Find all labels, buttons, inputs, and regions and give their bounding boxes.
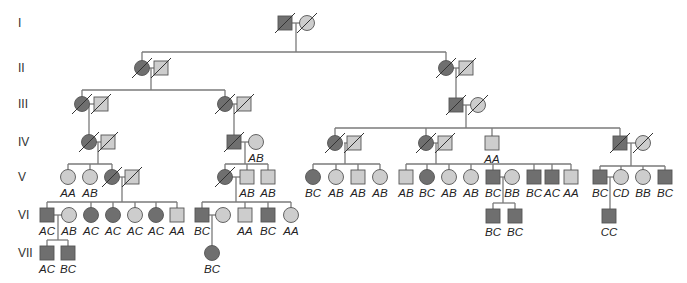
genotype-label: AA [282,225,299,237]
affected-male-square-icon [527,170,541,184]
individual-VI6: AC [147,208,165,238]
individual-III6 [468,95,488,115]
individual-VI5: AC [126,208,144,238]
individual-II2 [151,58,171,78]
genotype-label: BC [507,226,524,238]
unaffected-female-circle-icon [442,170,457,185]
individual-V6: AB [238,170,255,199]
unaffected-male-square-icon [399,170,413,184]
unaffected-female-circle-icon [329,170,344,185]
affected-female-circle-icon [205,246,220,261]
unaffected-male-square-icon [240,170,254,184]
unaffected-male-square-icon [351,170,365,184]
generation-label: V [18,170,26,184]
individual-V10: AB [349,170,366,199]
unaffected-female-circle-icon [249,135,264,150]
genotype-label: AB [247,152,264,164]
genotype-label: BC [204,263,221,275]
genotype-label: AA [59,187,76,199]
unaffected-female-circle-icon [464,170,479,185]
unaffected-female-circle-icon [216,208,231,223]
individual-IV11 [633,133,653,153]
genotype-label: AC [543,187,561,199]
genotype-label: BC [194,225,211,237]
genotype-label: AC [126,225,144,237]
individual-IV4: AB [247,135,264,165]
genotype-label: BC [485,187,502,199]
genotype-label: AB [397,187,414,199]
unaffected-female-circle-icon [83,170,98,185]
individual-V5 [215,167,235,187]
generation-label: VI [18,208,29,222]
unaffected-female-circle-icon [505,170,520,185]
individual-IV7 [416,133,436,153]
unaffected-female-circle-icon [284,208,299,223]
individual-VI10: AA [236,208,253,237]
individual-VI15: CC [601,209,618,238]
genotype-label: AB [327,187,344,199]
genotype-label: BC [592,187,609,199]
affected-male-square-icon [545,170,559,184]
individual-V24: BC [657,170,674,199]
individual-VII1: AC [38,246,56,275]
individual-V21: BC [592,170,609,199]
unaffected-female-circle-icon [373,170,388,185]
genotype-label: BC [260,225,277,237]
genotype-label: AB [60,225,77,237]
individual-IV1 [79,132,99,152]
genotype-label: BB [504,187,520,199]
individual-VII3: BC [204,246,221,276]
genotype-label: AC [38,225,56,237]
affected-female-circle-icon [149,208,164,223]
unaffected-female-circle-icon [614,170,629,185]
individual-VI9 [216,208,231,223]
generation-label: IV [18,135,29,149]
individual-III2 [91,94,111,114]
individual-VI8: BC [194,208,211,237]
individual-V17: BB [504,170,520,200]
individual-V3 [102,167,122,187]
genotype-label: AB [238,187,255,199]
affected-male-square-icon [593,170,607,184]
individual-VI3: AC [82,208,100,238]
genotype-label: AC [38,263,56,275]
genotype-label: BC [485,226,502,238]
individual-IV5 [325,133,345,153]
generation-labels: IIIIIIIVVVIVII [18,16,33,260]
individual-V1: AA [59,170,76,200]
affected-male-square-icon [40,208,54,222]
genotype-label: AA [483,153,500,165]
genotype-label: AA [236,225,253,237]
unaffected-male-square-icon [564,170,578,184]
individual-V11: AB [371,170,388,200]
genotype-label: AC [82,225,100,237]
genotype-label: BB [635,187,651,199]
individual-IV6 [344,133,364,153]
genotype-label: CC [601,226,618,238]
individual-V18: BC [526,170,543,199]
individual-IV2 [98,132,118,152]
individual-IV9: AA [483,136,500,165]
individual-V7: AB [259,170,276,199]
individual-VI2: AB [60,208,77,238]
individual-V20: AA [562,170,579,199]
affected-male-square-icon [40,246,54,260]
individual-V15: AB [462,170,479,200]
individual-II4 [456,58,476,78]
genotype-label: CD [613,187,630,199]
individual-V4 [122,167,142,187]
unaffected-female-circle-icon [128,208,143,223]
unaffected-male-square-icon [170,208,184,222]
individual-V19: AC [543,170,561,199]
genotype-label: AB [371,187,388,199]
genotype-label: AB [440,187,457,199]
genotype-label: AA [168,225,185,237]
genotype-label: BC [305,187,322,199]
generation-label: VII [18,246,33,260]
genotype-label: BC [60,263,77,275]
individual-V8: BC [305,170,322,200]
affected-female-circle-icon [420,170,435,185]
individual-V22: CD [613,170,630,200]
individual-IV8 [435,133,455,153]
affected-male-square-icon [486,209,500,223]
